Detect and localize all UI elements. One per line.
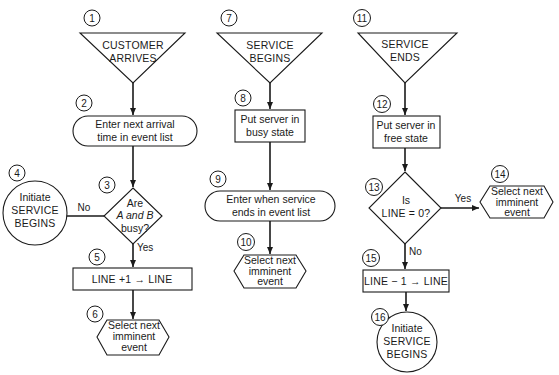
node-13-is-line-zero: 13 Is LINE = 0? [366, 172, 442, 244]
node-label-line: SERVICE [383, 335, 430, 347]
step-number: 15 [365, 253, 377, 264]
flowchart-service-begins: 7 SERVICE BEGINS 8 Put server in busy st… [205, 10, 335, 288]
step-number: 14 [494, 169, 506, 180]
node-label-line: Is [402, 194, 410, 206]
step-number: 3 [104, 180, 110, 191]
node-label-line: Initiate [20, 191, 51, 203]
edge-label-no: No [78, 202, 91, 213]
step-number: 10 [240, 237, 252, 248]
node-2-enter-next-arrival: 2 Enter next arrival time in event list [73, 95, 197, 146]
step-number: 11 [357, 13, 368, 24]
node-label-line: Enter when service [226, 193, 315, 205]
step-number: 13 [368, 182, 380, 193]
node-label-line: BEGINS [387, 348, 428, 360]
node-7-service-begins: 7 SERVICE BEGINS [217, 10, 322, 83]
node-3-are-a-and-b-busy: 3 Are A and B busy? [99, 177, 162, 244]
node-label-line: CUSTOMER [102, 39, 164, 51]
node-label-line: event [257, 275, 283, 287]
edge-label-no: No [409, 246, 422, 257]
node-4-initiate-service-begins: 4 Initiate SERVICE BEGINS [3, 165, 67, 245]
step-number: 2 [81, 98, 87, 109]
edge-label-yes: Yes [137, 242, 153, 253]
flowchart-service-ends: 11 SERVICE ENDS 12 Put server in free st… [354, 10, 554, 373]
node-label-line: LINE +1 → LINE [92, 273, 173, 285]
step-number: 1 [89, 13, 95, 24]
node-label-line: BEGINS [250, 52, 291, 64]
node-11-service-ends: 11 SERVICE ENDS [354, 10, 458, 84]
step-number: 16 [374, 312, 386, 323]
step-number: 7 [226, 13, 232, 24]
node-label-line: ARRIVES [109, 52, 157, 64]
node-label-line: Put server in [241, 113, 300, 125]
node-label-line: event [121, 341, 147, 353]
edge-label-yes: Yes [455, 193, 471, 204]
step-number: 9 [215, 174, 221, 185]
node-label-line: SERVICE [11, 204, 58, 216]
flowchart-canvas: 1 CUSTOMER ARRIVES 2 Enter next arrival … [0, 0, 559, 375]
node-label-line: Initiate [392, 322, 423, 334]
node-label-line: busy state [246, 126, 294, 138]
node-label-line: free state [384, 132, 428, 144]
node-label-line: ends in event list [232, 206, 310, 218]
node-label-line: BEGINS [15, 217, 56, 229]
node-label-line: busy? [121, 222, 149, 234]
step-number: 12 [376, 99, 388, 110]
node-label-line: Put server in [377, 119, 436, 131]
node-6-select-next-imminent-event: 6 Select next imminent event [87, 306, 169, 355]
node-12-put-server-free: 12 Put server in free state [373, 96, 440, 149]
node-label-line: event [504, 206, 530, 218]
step-number: 6 [92, 309, 98, 320]
node-label-line: SERVICE [381, 38, 428, 50]
node-1-customer-arrives: 1 CUSTOMER ARRIVES [80, 10, 185, 83]
node-14-select-next-imminent-event: 14 Select next imminent event [480, 166, 553, 219]
node-label-line: LINE − 1 → LINE [364, 275, 448, 287]
flowchart-customer-arrives: 1 CUSTOMER ARRIVES 2 Enter next arrival … [3, 10, 197, 355]
node-label-line: ENDS [390, 51, 420, 63]
node-16-initiate-service-begins: 16 Initiate SERVICE BEGINS [372, 309, 438, 373]
node-label-line: SERVICE [246, 39, 293, 51]
node-label-line: LINE = 0? [382, 207, 431, 219]
node-label-line: time in event list [97, 131, 172, 143]
step-number: 4 [14, 168, 20, 179]
node-label-line: A and B [116, 209, 154, 221]
node-label-line: Enter next arrival [95, 118, 174, 130]
node-label-line: Are [127, 197, 144, 209]
step-number: 8 [240, 93, 246, 104]
step-number: 5 [94, 252, 100, 263]
